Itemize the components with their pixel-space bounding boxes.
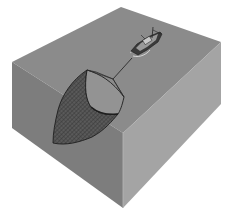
trawl-diagram [0,0,225,214]
